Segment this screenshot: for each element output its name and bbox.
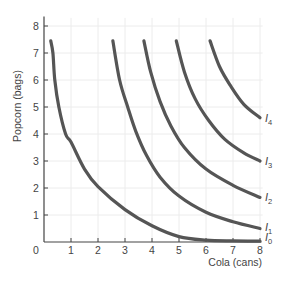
y-tick-label: 4: [33, 128, 39, 140]
x-tick-label: 5: [176, 244, 182, 256]
y-tick-label: 3: [33, 155, 39, 167]
grid-lines: [44, 18, 263, 242]
curve-i4: [210, 41, 260, 118]
y-tick-label: 7: [33, 47, 39, 59]
curve-i1: [113, 41, 260, 229]
curve-label-i4: I4: [265, 112, 272, 127]
curve-label-i3: I3: [265, 155, 272, 170]
x-axis-label: Cola (cans): [208, 256, 262, 268]
y-tick-label: 1: [33, 209, 39, 221]
x-tick-label: 0: [33, 244, 39, 256]
x-tick-label: 2: [95, 244, 101, 256]
curve-i3: [176, 41, 260, 161]
y-axis-label: Popcorn (bags): [11, 70, 23, 142]
y-tick-label: 5: [33, 101, 39, 113]
curve-label-i2: I2: [265, 191, 272, 206]
x-tick-label: 3: [122, 244, 128, 256]
indifference-curve-chart: 01234567812345678 I0I1I2I3I4 Cola (cans)…: [0, 0, 296, 283]
curve-i2: [144, 41, 260, 198]
y-tick-label: 8: [33, 20, 39, 32]
x-tick-label: 7: [230, 244, 236, 256]
y-tick-label: 6: [33, 74, 39, 86]
indifference-curves: [51, 41, 260, 241]
axes: [44, 17, 261, 242]
x-tick-label: 6: [203, 244, 209, 256]
curve-labels: I0I1I2I3I4: [265, 112, 272, 246]
y-tick-label: 2: [33, 182, 39, 194]
x-tick-label: 8: [257, 244, 263, 256]
x-tick-label: 4: [149, 244, 155, 256]
x-tick-label: 1: [68, 244, 74, 256]
